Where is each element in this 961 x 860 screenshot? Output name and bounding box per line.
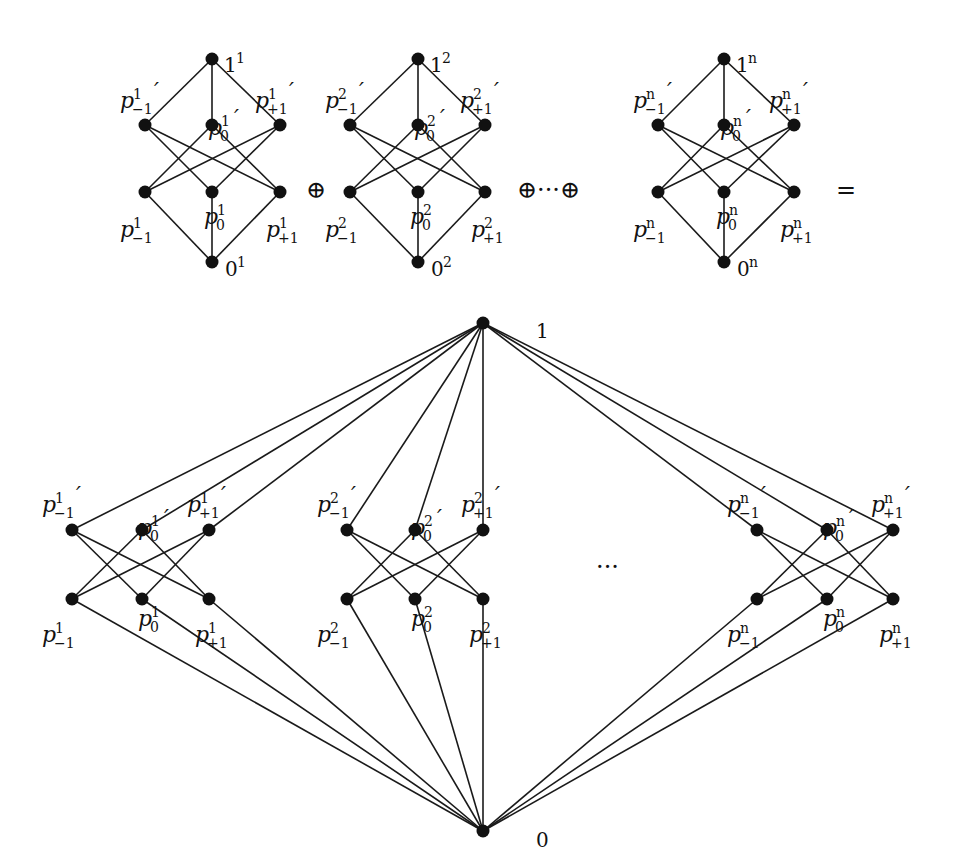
node-lower (274, 186, 287, 199)
label-p0-2-superscript: 2 (423, 202, 432, 218)
equals-sign: = (836, 176, 856, 204)
label-p-plus1-n-subscript: +1 (792, 230, 813, 246)
edge-lower-to-bottom (145, 192, 212, 262)
node-lower (887, 593, 900, 606)
node-upper (887, 524, 900, 537)
label-p0-prime-1-superscript: 1 (151, 513, 160, 529)
label-p0-n-subscript: 0 (835, 619, 844, 635)
label-p-minus1-prime-n-prime: ′ (761, 482, 766, 507)
label-top-2-superscript: 2 (442, 50, 451, 66)
oplus-operator: ⊕ (306, 176, 326, 204)
label-bottom-0: 0 (536, 828, 549, 852)
label-p0-1-superscript: 1 (151, 604, 160, 620)
label-top-1: 1 (536, 319, 549, 343)
node-top (718, 53, 731, 66)
label-p0-prime-2-superscript: 2 (427, 113, 436, 129)
label-p-minus1-n-superscript: n (646, 215, 655, 231)
label-p-minus1-prime-2-subscript: −1 (337, 101, 358, 117)
label-p-plus1-prime-2-subscript: +1 (472, 101, 493, 117)
label-p0-n-subscript: 0 (728, 217, 737, 233)
edge-lower-to-bottom (658, 192, 724, 262)
label-p-plus1-1-superscript: 1 (208, 620, 217, 636)
label-p-minus1-prime-n-subscript: −1 (645, 101, 666, 117)
label-p-plus1-1-subscript: +1 (207, 635, 228, 651)
label-p-minus1-2-subscript: −1 (337, 230, 358, 246)
label-p-minus1-prime-2-superscript: 2 (330, 490, 339, 506)
label-p-minus1-n-subscript: −1 (645, 230, 666, 246)
label-p0-1-subscript: 0 (216, 217, 225, 233)
label-p-minus1-1-subscript: −1 (132, 230, 153, 246)
node-upper (344, 119, 357, 132)
label-p-minus1-prime-n-superscript: n (740, 490, 749, 506)
label-p-plus1-prime-2-prime: ′ (495, 482, 500, 507)
label-p-minus1-prime-1-subscript: −1 (132, 101, 153, 117)
node-lower (136, 593, 149, 606)
label-p0-prime-n-subscript: 0 (835, 528, 844, 544)
node-upper (203, 524, 216, 537)
label-p-plus1-prime-n-superscript: n (884, 490, 893, 506)
edge-top-to-upper (483, 323, 757, 530)
label-p0-prime-2-superscript: 2 (424, 513, 433, 529)
node-upper (66, 524, 79, 537)
label-p-plus1-n-superscript: n (892, 620, 901, 636)
node-lower (479, 186, 492, 199)
label-p-plus1-prime-2-subscript: +1 (473, 505, 494, 521)
edge-lower-to-bottom (72, 599, 483, 831)
lattice-diagram: 1101p1−1′p10′p1+1′p1−1p10p1+11202p2−1′p2… (0, 0, 961, 860)
label-p0-prime-n-superscript: n (836, 513, 845, 529)
label-p0-n-superscript: n (836, 604, 845, 620)
edge-lower-to-bottom (350, 192, 418, 262)
ellipsis: ··· (596, 553, 619, 581)
node-lower (718, 186, 731, 199)
label-p-plus1-prime-1-prime: ′ (221, 482, 226, 507)
edge-lower-to-bottom (483, 599, 893, 831)
label-p-minus1-prime-n-prime: ′ (667, 78, 672, 103)
node-lower (206, 186, 219, 199)
label-p0-prime-1-prime: ′ (234, 105, 239, 130)
dots-oplus-operator: ⊕···⊕ (517, 176, 580, 204)
label-p0-prime-n-prime: ′ (849, 505, 854, 530)
label-p-plus1-2-superscript: 2 (484, 215, 493, 231)
node-lower (412, 186, 425, 199)
label-top-1-superscript: 1 (236, 50, 245, 66)
label-p0-prime-n-prime: ′ (746, 105, 751, 130)
node-bottom-0 (477, 825, 490, 838)
label-p-minus1-prime-1-prime: ′ (76, 482, 81, 507)
label-p-plus1-prime-1-prime: ′ (289, 78, 294, 103)
label-p-minus1-prime-n-superscript: n (646, 86, 655, 102)
label-p-minus1-2-superscript: 2 (338, 215, 347, 231)
node-upper (479, 119, 492, 132)
edge-top-to-upper (209, 323, 483, 530)
label-p-plus1-prime-n-superscript: n (782, 86, 791, 102)
label-p0-prime-2-subscript: 0 (423, 528, 432, 544)
label-p-plus1-prime-n-prime: ′ (803, 78, 808, 103)
label-p-plus1-prime-2-prime: ′ (494, 78, 499, 103)
label-p-plus1-prime-2-superscript: 2 (473, 86, 482, 102)
node-lower (341, 593, 354, 606)
node-bottom (206, 256, 219, 269)
label-p0-1-superscript: 1 (217, 202, 226, 218)
label-p0-prime-n-superscript: n (733, 113, 742, 129)
label-p0-prime-n-subscript: 0 (732, 128, 741, 144)
label-bottom-n: 0 (737, 257, 750, 281)
label-p0-prime-1-prime: ′ (164, 505, 169, 530)
label-p-plus1-prime-1-superscript: 1 (200, 490, 209, 506)
label-p-minus1-prime-2-superscript: 2 (338, 86, 347, 102)
edge-top-to-upper (483, 323, 893, 530)
node-top (206, 53, 219, 66)
label-p-plus1-prime-1-subscript: +1 (199, 505, 220, 521)
node-upper (751, 524, 764, 537)
label-p-plus1-prime-1-superscript: 1 (268, 86, 277, 102)
label-bottom-n-superscript: n (749, 254, 758, 270)
edge-lower-to-bottom (483, 599, 757, 831)
node-upper (139, 119, 152, 132)
label-p-plus1-1-subscript: +1 (278, 230, 299, 246)
label-p-minus1-2-subscript: −1 (329, 635, 350, 651)
label-top-2: 1 (430, 53, 443, 77)
label-top-n-superscript: n (748, 50, 757, 66)
label-p-plus1-n-superscript: n (793, 215, 802, 231)
node-lower (477, 593, 490, 606)
label-bottom-1: 0 (225, 257, 238, 281)
label-p-plus1-prime-n-subscript: +1 (781, 101, 802, 117)
label-bottom-2-superscript: 2 (443, 254, 452, 270)
